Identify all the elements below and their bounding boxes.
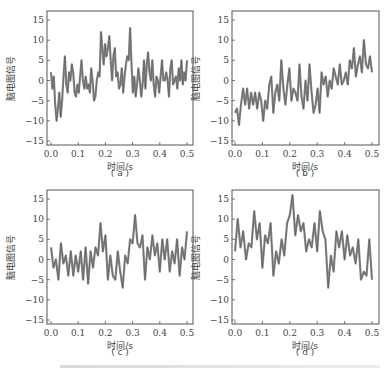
y-tick-label: 5 (38, 234, 44, 244)
x-tick-label: 0.1 (255, 149, 269, 159)
signal-line-core (235, 195, 372, 288)
x-tick-label: 0.1 (71, 149, 85, 159)
y-tick-label: −15 (210, 136, 229, 146)
x-tick-label: 0.5 (180, 149, 195, 159)
y-axis-label: 脑电图信号 (190, 56, 201, 101)
x-tick-label: 0.2 (98, 149, 112, 159)
x-tick-label: 0.3 (310, 149, 325, 159)
x-tick-label: 0.3 (310, 328, 325, 338)
y-tick-label: 10 (33, 35, 45, 45)
y-tick-label: −10 (25, 116, 44, 126)
chart-panel-d: −15−10−50510150.00.10.20.30.40.5时间/s脑电图信… (190, 190, 379, 357)
y-tick-label: 15 (218, 15, 230, 25)
y-tick-label: 15 (33, 194, 45, 204)
y-tick-label: 0 (38, 76, 44, 86)
x-tick-label: 0.3 (125, 328, 140, 338)
y-tick-label: 10 (218, 214, 230, 224)
signal-line (235, 195, 372, 288)
y-tick-label: 5 (223, 55, 229, 65)
y-tick-label: 0 (223, 255, 229, 265)
y-tick-label: −10 (25, 295, 44, 305)
x-tick-label: 0.2 (283, 328, 297, 338)
y-tick-label: −5 (216, 96, 230, 106)
y-tick-label: −15 (25, 136, 44, 146)
x-tick-label: 0.2 (283, 149, 297, 159)
signal-line-core (235, 40, 372, 125)
x-tick-label: 0.3 (125, 149, 140, 159)
y-tick-label: 0 (38, 255, 44, 265)
x-tick-label: 0.5 (180, 328, 195, 338)
y-tick-label: 0 (223, 76, 229, 86)
x-tick-label: 0.2 (98, 328, 112, 338)
y-tick-label: −5 (31, 96, 45, 106)
chart-panel-a: −15−10−50510150.00.10.20.30.40.5时间/s脑电图信… (5, 11, 194, 178)
panel-label: ( d ) (296, 347, 314, 357)
x-tick-label: 0.4 (337, 149, 352, 159)
x-tick-label: 0.4 (153, 328, 168, 338)
x-tick-label: 0.5 (365, 149, 380, 159)
y-tick-label: −15 (25, 315, 44, 325)
y-axis-label: 脑电图信号 (190, 235, 201, 280)
y-tick-label: 10 (33, 214, 45, 224)
signal-line (235, 40, 372, 125)
x-tick-label: 0.1 (255, 328, 269, 338)
y-axis-label: 脑电图信号 (5, 56, 16, 101)
x-tick-label: 0.0 (44, 149, 59, 159)
chart-panel-c: −15−10−50510150.00.10.20.30.40.5时间/s脑电图信… (5, 190, 194, 357)
plot-frame (232, 11, 379, 145)
y-tick-label: −10 (210, 116, 229, 126)
y-tick-label: −10 (210, 295, 229, 305)
x-tick-label: 0.1 (71, 328, 85, 338)
chart-panel-b: −15−10−50510150.00.10.20.30.40.5时间/s脑电图信… (190, 11, 379, 178)
x-tick-label: 0.0 (228, 149, 243, 159)
figure-canvas: −15−10−50510150.00.10.20.30.40.5时间/s脑电图信… (0, 0, 387, 371)
y-axis-label: 脑电图信号 (5, 235, 16, 280)
y-tick-label: −15 (210, 315, 229, 325)
signal-line (51, 215, 187, 288)
caption-fragment (60, 362, 380, 371)
y-tick-label: 15 (33, 15, 45, 25)
panel-label: ( b ) (296, 168, 314, 178)
panel-label: ( a ) (111, 168, 129, 178)
x-tick-label: 0.0 (44, 328, 59, 338)
x-tick-label: 0.4 (337, 328, 352, 338)
y-tick-label: 5 (223, 234, 229, 244)
x-tick-label: 0.4 (153, 149, 168, 159)
panel-label: ( c ) (111, 347, 129, 357)
y-tick-label: −5 (216, 275, 230, 285)
x-tick-label: 0.0 (228, 328, 243, 338)
y-tick-label: 15 (218, 194, 230, 204)
x-tick-label: 0.5 (365, 328, 380, 338)
y-tick-label: −5 (31, 275, 45, 285)
y-tick-label: 10 (218, 35, 230, 45)
y-tick-label: 5 (38, 55, 44, 65)
